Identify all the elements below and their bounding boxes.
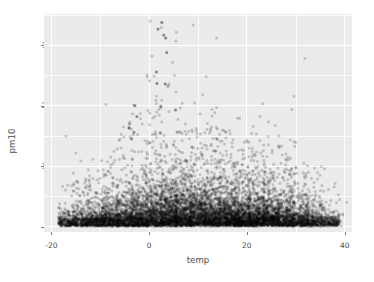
- scatter-plot-figure: pm10 temp 0100200300-2002040: [0, 0, 374, 282]
- x-tick-mark: [345, 232, 346, 235]
- plot-panel: [44, 14, 352, 232]
- x-tick-label: 0: [134, 241, 164, 250]
- x-tick-label: -20: [36, 241, 66, 250]
- x-tick-label: 40: [330, 241, 360, 250]
- x-axis-title: temp: [44, 254, 352, 266]
- x-tick-label: 20: [232, 241, 262, 250]
- x-tick-mark: [149, 232, 150, 235]
- x-tick-mark: [51, 232, 52, 235]
- data-points-layer: [44, 14, 352, 232]
- x-tick-mark: [247, 232, 248, 235]
